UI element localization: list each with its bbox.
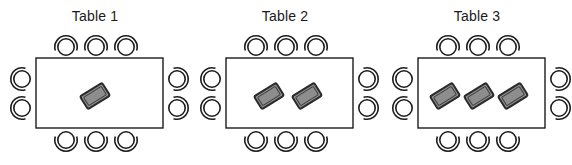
chair-seat-icon <box>118 39 134 55</box>
chair-seat-icon <box>440 132 456 148</box>
table-1-group: Table 1 <box>0 0 190 165</box>
chair-up-1 <box>437 36 459 55</box>
table-2-surface <box>226 58 353 128</box>
chair-left-2 <box>11 97 30 119</box>
chair-up-2 <box>275 36 297 55</box>
table-3-canvas <box>382 0 572 165</box>
chair-seat-icon <box>204 100 220 116</box>
chair-down-1 <box>55 132 77 151</box>
chair-right-1 <box>359 68 378 90</box>
chair-seat-icon <box>169 100 185 116</box>
chair-seat-icon <box>500 132 516 148</box>
chair-seat-icon <box>470 39 486 55</box>
chair-down-3 <box>305 132 327 151</box>
chair-seat-icon <box>470 132 486 148</box>
chair-up-1 <box>55 36 77 55</box>
chair-seat-icon <box>248 132 264 148</box>
table-2-group: Table 2 <box>190 0 380 165</box>
chair-seat-icon <box>359 100 375 116</box>
chair-up-3 <box>115 36 137 55</box>
chair-seat-icon <box>278 39 294 55</box>
chair-left-2 <box>201 97 220 119</box>
chair-seat-icon <box>204 71 220 87</box>
chair-seat-icon <box>500 39 516 55</box>
chair-left-1 <box>201 68 220 90</box>
chair-seat-icon <box>58 39 74 55</box>
chair-seat-icon <box>551 71 567 87</box>
chair-up-3 <box>305 36 327 55</box>
chair-seat-icon <box>14 100 30 116</box>
chair-down-3 <box>497 132 519 151</box>
chair-down-2 <box>85 132 107 151</box>
chair-up-2 <box>467 36 489 55</box>
chair-down-3 <box>115 132 137 151</box>
chair-seat-icon <box>169 71 185 87</box>
chair-seat-icon <box>278 132 294 148</box>
chair-seat-icon <box>551 100 567 116</box>
chair-left-2 <box>393 97 412 119</box>
chair-right-2 <box>169 97 188 119</box>
chair-seat-icon <box>359 71 375 87</box>
chair-seat-icon <box>248 39 264 55</box>
chair-down-1 <box>245 132 267 151</box>
chair-seat-icon <box>14 71 30 87</box>
chair-seat-icon <box>88 39 104 55</box>
chair-right-1 <box>169 68 188 90</box>
chair-seat-icon <box>440 39 456 55</box>
chair-seat-icon <box>396 100 412 116</box>
chair-down-2 <box>275 132 297 151</box>
chair-seat-icon <box>58 132 74 148</box>
chair-up-2 <box>85 36 107 55</box>
chair-seat-icon <box>88 132 104 148</box>
chair-seat-icon <box>308 132 324 148</box>
chair-left-1 <box>11 68 30 90</box>
chair-up-1 <box>245 36 267 55</box>
chair-down-2 <box>467 132 489 151</box>
chair-right-2 <box>551 97 570 119</box>
chair-up-3 <box>497 36 519 55</box>
chair-seat-icon <box>308 39 324 55</box>
table-2-canvas <box>190 0 380 165</box>
chair-left-1 <box>393 68 412 90</box>
table-3-group: Table 3 <box>382 0 572 165</box>
chair-down-1 <box>437 132 459 151</box>
chair-seat-icon <box>118 132 134 148</box>
chair-right-2 <box>359 97 378 119</box>
chair-right-1 <box>551 68 570 90</box>
seating-layout-diagram: Table 1Table 2Table 3 <box>0 0 572 165</box>
chair-seat-icon <box>396 71 412 87</box>
table-1-canvas <box>0 0 190 165</box>
